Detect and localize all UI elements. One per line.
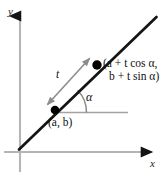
point-ab-dot <box>51 106 60 115</box>
point-parametric-label: (a + t cos α, b + t sin α) <box>103 57 159 83</box>
parametric-line-figure: y x (a, b) (a + t cos α, b + t sin α) t … <box>0 0 168 176</box>
y-axis-label: y <box>8 5 13 17</box>
x-axis-label: x <box>150 157 155 169</box>
figure-canvas <box>0 0 168 176</box>
point-parametric-label-line-2: b + t sin α) <box>103 70 159 83</box>
point-parametric-dot <box>92 60 101 69</box>
angle-alpha-label: α <box>86 91 92 104</box>
segment-length-label: t <box>56 68 59 81</box>
point-ab-label: (a, b) <box>48 116 72 129</box>
point-parametric-label-line-1: (a + t cos α, <box>103 57 157 69</box>
parametric-line <box>19 17 157 150</box>
